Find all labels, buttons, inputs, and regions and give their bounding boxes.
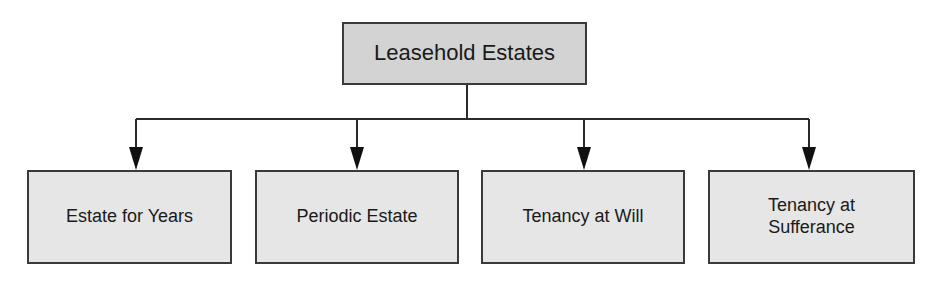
arrowhead-icon xyxy=(577,147,591,170)
node-tenancy-at-sufferance: Tenancy at Sufferance xyxy=(708,170,915,264)
node-leasehold-estates: Leasehold Estates xyxy=(342,22,587,85)
arrowhead-icon xyxy=(802,147,816,170)
node-label-line-1: Tenancy at xyxy=(768,195,855,217)
node-label-line-2: Sufferance xyxy=(768,217,855,239)
node-label: Periodic Estate xyxy=(296,206,417,228)
arrowhead-icon xyxy=(350,147,364,170)
node-tenancy-at-will: Tenancy at Will xyxy=(481,170,685,264)
node-label: Tenancy at Sufferance xyxy=(768,195,855,238)
node-periodic-estate: Periodic Estate xyxy=(255,170,459,264)
node-label: Leasehold Estates xyxy=(374,40,555,66)
node-estate-for-years: Estate for Years xyxy=(27,170,232,264)
node-label: Estate for Years xyxy=(66,206,193,228)
node-label: Tenancy at Will xyxy=(522,206,643,228)
arrowhead-icon xyxy=(129,147,143,170)
